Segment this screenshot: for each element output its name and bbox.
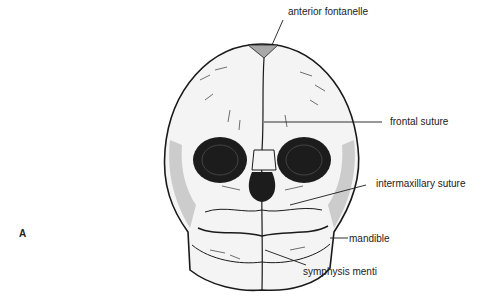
label-frontal-suture: frontal suture xyxy=(390,116,448,127)
label-intermaxillary-suture: intermaxillary suture xyxy=(376,178,465,189)
label-anterior-fontanelle: anterior fontanelle xyxy=(288,6,368,17)
leader-anterior-fontanelle xyxy=(272,20,283,45)
nasal-bones xyxy=(252,150,276,170)
label-mandible: mandible xyxy=(349,233,390,244)
panel-letter: A xyxy=(19,228,26,239)
right-orbit xyxy=(277,137,331,183)
label-symphysis-menti: symphysis menti xyxy=(303,266,377,277)
skull-illustration xyxy=(0,0,488,301)
figure: anterior fontanelle frontal suture inter… xyxy=(0,0,488,301)
left-orbit xyxy=(193,137,247,183)
